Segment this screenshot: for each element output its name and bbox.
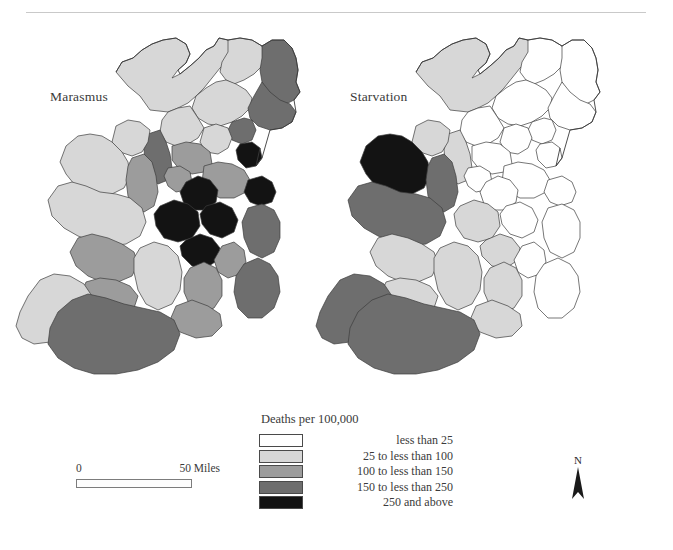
county-wicklow	[542, 204, 580, 258]
map-title-starvation: Starvation	[350, 89, 408, 105]
county-armagh	[528, 118, 556, 144]
legend-title: Deaths per 100,000	[261, 412, 459, 427]
map-marasmus	[0, 0, 340, 410]
map-title-marasmus: Marasmus	[50, 89, 108, 105]
county-tipperary	[434, 242, 482, 310]
county-kildare	[200, 202, 238, 238]
legend-label-class-1: 25 to less than 100	[303, 449, 459, 464]
figure-page: Marasmus Starvation Deaths per 100,000 l…	[0, 0, 673, 550]
map-starvation	[300, 0, 640, 410]
scale-bar-max-label: 50 Miles	[179, 462, 220, 474]
legend-swatch-class-4	[259, 496, 303, 509]
legend-row: 25 to less than 100	[259, 449, 459, 465]
legend-row: less than 25	[259, 433, 459, 449]
county-dublin	[544, 176, 576, 206]
county-wicklow	[242, 204, 280, 258]
county-armagh	[228, 118, 256, 144]
legend-row: 150 to less than 250	[259, 480, 459, 496]
county-kildare	[500, 202, 538, 238]
north-arrow-icon	[570, 467, 586, 501]
legend-swatch-class-0	[259, 434, 303, 447]
legend-row: 100 to less than 150	[259, 464, 459, 480]
legend-swatch-class-2	[259, 465, 303, 478]
scale-bar-min-label: 0	[76, 462, 82, 474]
county-dublin	[244, 176, 276, 206]
legend-label-class-2: 100 to less than 150	[303, 464, 459, 479]
legend: Deaths per 100,000 less than 25 25 to le…	[259, 412, 459, 511]
legend-label-class-3: 150 to less than 250	[303, 480, 459, 495]
north-arrow: N	[565, 455, 591, 505]
legend-label-class-4: 250 and above	[303, 495, 459, 510]
legend-label-class-0: less than 25	[303, 433, 459, 448]
county-tipperary	[134, 242, 182, 310]
scale-bar-labels: 0 50 Miles	[76, 462, 192, 476]
north-arrow-label: N	[565, 455, 591, 466]
scale-bar-track	[76, 479, 192, 488]
scale-bar: 0 50 Miles	[76, 462, 192, 488]
legend-swatch-class-1	[259, 450, 303, 463]
legend-row: 250 and above	[259, 495, 459, 511]
legend-swatch-class-3	[259, 481, 303, 494]
